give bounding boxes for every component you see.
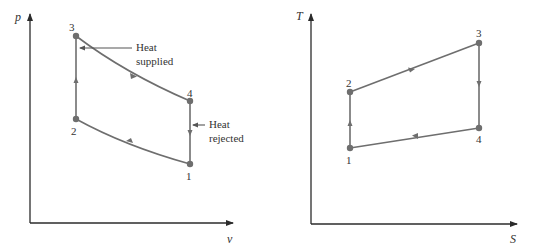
ts-point-label-3: 3	[476, 27, 482, 39]
pv-y-axis-label: p	[14, 10, 21, 24]
ts-y-axis-label: T	[296, 9, 304, 23]
pv-point-label-1: 1	[186, 170, 192, 182]
ts-point-2	[347, 89, 353, 95]
pv-process-3-4	[76, 36, 190, 101]
pv-point-label-4: 4	[187, 87, 193, 99]
pv-diagram: p v 1 2 3 4 Heat supplied Heat rejected	[14, 10, 244, 246]
heat-supplied-label-line2: supplied	[136, 55, 174, 67]
ts-process-4-1	[350, 128, 479, 148]
ts-point-3	[476, 40, 482, 46]
heat-rejected-label-line1: Heat	[209, 118, 230, 130]
pv-arrow-4-1-icon	[188, 130, 193, 136]
pv-point-label-3: 3	[69, 21, 75, 33]
ts-process-2-3	[350, 43, 479, 92]
ts-x-axis-label: S	[510, 232, 516, 246]
ts-point-label-1: 1	[346, 154, 352, 166]
ts-point-4	[476, 125, 482, 131]
heat-supplied-label-line1: Heat	[136, 41, 157, 53]
pv-x-axis-label: v	[227, 232, 233, 246]
pv-point-1	[187, 161, 193, 167]
ts-point-label-2: 2	[346, 77, 352, 89]
pv-point-3	[73, 33, 79, 39]
ts-point-label-4: 4	[476, 133, 482, 145]
ts-diagram: T S 1 2 3 4	[296, 9, 517, 246]
pv-arrow-2-3-icon	[74, 77, 79, 83]
heat-rejected-label-line2: rejected	[209, 132, 244, 144]
pv-point-label-2: 2	[71, 125, 77, 137]
ts-point-1	[347, 145, 353, 151]
pv-point-2	[73, 116, 79, 122]
cycle-diagrams: p v 1 2 3 4 Heat supplied Heat rejected	[0, 0, 534, 249]
ts-arrow-3-4-icon	[477, 81, 482, 87]
pv-process-1-2	[76, 119, 190, 164]
ts-arrow-1-2-icon	[348, 120, 353, 126]
